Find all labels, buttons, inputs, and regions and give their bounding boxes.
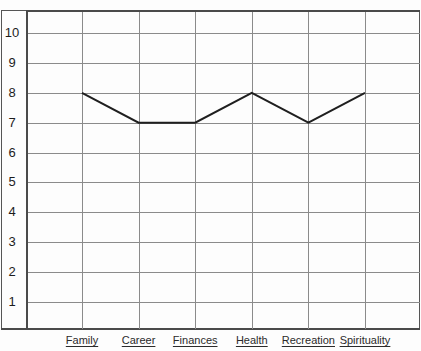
y-axis-tick-label: 5 (0, 175, 24, 188)
gridline-horizontal (28, 153, 420, 154)
x-axis-category-label: Family (66, 334, 98, 346)
gridline-vertical (139, 12, 140, 329)
x-axis-category-label: Finances (173, 334, 218, 346)
gridline-horizontal (28, 182, 420, 183)
gridline-horizontal (28, 33, 420, 34)
gridline-horizontal (28, 272, 420, 273)
y-axis-tick-label: 6 (0, 146, 24, 159)
x-axis-category-label: Career (122, 334, 156, 346)
gridline-horizontal (28, 212, 420, 213)
gridline-horizontal (28, 123, 420, 124)
gridline-vertical (252, 12, 253, 329)
y-axis-tick-label: 1 (0, 295, 24, 308)
plot-area (28, 12, 420, 329)
y-axis-tick-label: 2 (0, 265, 24, 278)
y-axis-tick-label: 3 (0, 235, 24, 248)
gridline-horizontal (28, 302, 420, 303)
y-axis-tick-label: 4 (0, 205, 24, 218)
x-axis-category-label: Recreation (282, 334, 335, 346)
y-axis-tick-label: 7 (0, 116, 24, 129)
y-axis-tick-label: 8 (0, 86, 24, 99)
gridline-horizontal (28, 93, 420, 94)
gridline-vertical (308, 12, 309, 329)
x-axis-category-label: Spirituality (340, 334, 391, 346)
life-balance-line-chart: 10987654321 FamilyCareerFinancesHealthRe… (0, 0, 421, 351)
gridline-horizontal (28, 242, 420, 243)
y-axis-tick-label: 10 (0, 26, 24, 39)
gridline-vertical (365, 12, 366, 329)
gridline-vertical (82, 12, 83, 329)
gridline-horizontal (28, 63, 420, 64)
x-axis-category-label: Health (236, 334, 268, 346)
gridline-vertical (195, 12, 196, 329)
y-axis-tick-label: 9 (0, 56, 24, 69)
